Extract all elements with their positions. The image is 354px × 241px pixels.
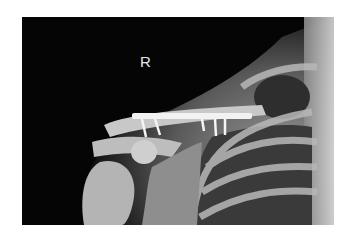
xray-anatomy <box>22 17 334 225</box>
coracoid <box>131 140 157 164</box>
xray-image: R <box>22 17 334 225</box>
side-marker: R <box>140 54 151 69</box>
clavicle-plate <box>132 113 252 119</box>
